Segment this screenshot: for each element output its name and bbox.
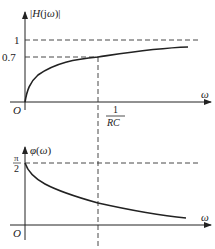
phase-y-tick-numerator: π — [14, 153, 19, 163]
phase-y-label: φ(ω) — [30, 144, 52, 157]
amplitude-origin-label: O — [13, 104, 21, 116]
amplitude-y-tick-1: 1 — [14, 34, 20, 46]
phase-y-tick-denominator: 2 — [14, 163, 19, 174]
amplitude-y-label: |H(jω)| — [30, 7, 61, 20]
phase-plot: φ(ω) π 2 O ω — [10, 144, 211, 240]
amplitude-x-label: ω — [201, 88, 209, 100]
cutoff-tick-denominator: RC — [106, 117, 120, 128]
phase-curve — [25, 163, 186, 218]
phase-x-label: ω — [201, 211, 209, 223]
phase-origin-label: O — [13, 227, 21, 239]
frequency-response-figure: |H(jω)| 1 0.7 O ω 1 RC φ(ω) π 2 O ω — [0, 0, 215, 249]
cutoff-tick-numerator: 1 — [113, 104, 118, 115]
amplitude-curve — [25, 47, 188, 102]
amplitude-plot: |H(jω)| 1 0.7 O ω 1 RC — [2, 7, 211, 249]
amplitude-y-tick-0.7: 0.7 — [2, 51, 16, 63]
